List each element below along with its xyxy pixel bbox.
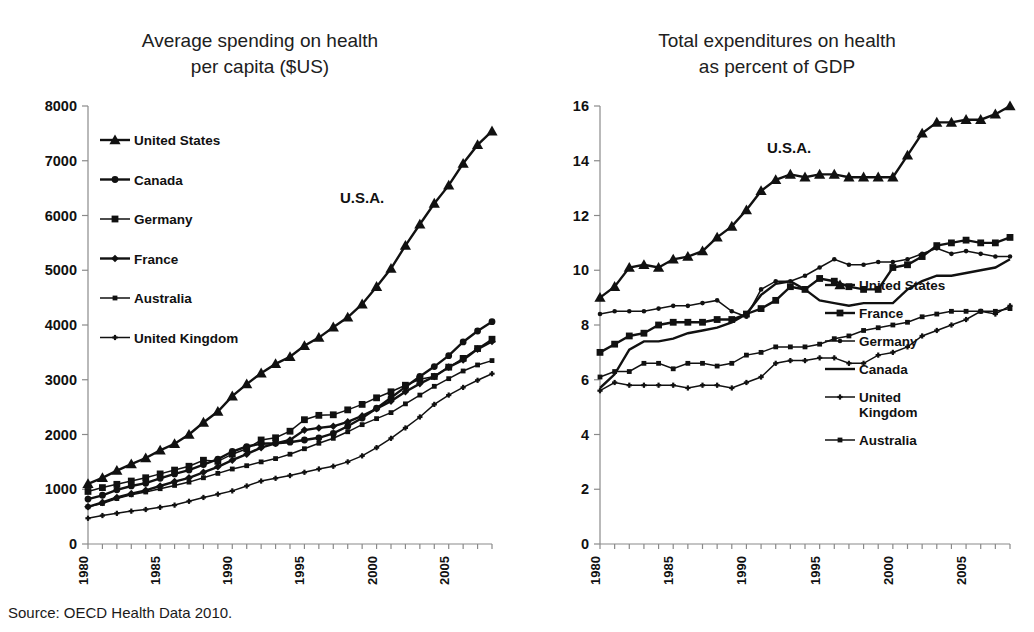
data-point-marker — [643, 383, 645, 388]
data-point-marker — [404, 425, 406, 430]
data-point-marker — [186, 463, 193, 470]
data-point-marker — [87, 516, 89, 521]
y-tick-label: 2000 — [45, 427, 77, 443]
data-point-marker — [934, 312, 939, 317]
x-tick-label: 1980 — [588, 556, 603, 585]
data-point-marker — [403, 401, 408, 406]
data-point-marker — [318, 466, 320, 471]
x-tick-label: 2005 — [954, 556, 969, 585]
series-line — [600, 309, 1010, 377]
data-point-marker — [462, 385, 464, 390]
data-point-marker — [446, 376, 451, 381]
data-point-marker — [200, 457, 207, 464]
data-point-marker — [231, 488, 233, 493]
data-point-marker — [344, 406, 351, 413]
data-point-marker — [714, 316, 721, 323]
data-point-marker — [904, 261, 911, 268]
legend-label[interactable]: Kingdom — [859, 405, 918, 420]
data-point-marker — [259, 459, 264, 464]
data-point-marker — [329, 422, 337, 430]
data-point-marker — [611, 341, 618, 348]
data-point-marker — [655, 322, 662, 329]
legend-label[interactable]: Australia — [134, 291, 192, 306]
data-point-marker — [260, 478, 262, 483]
data-point-marker — [99, 484, 106, 491]
data-point-marker — [101, 513, 103, 518]
data-point-marker — [256, 368, 267, 378]
data-point-marker — [642, 361, 647, 366]
data-point-marker — [745, 380, 747, 385]
data-point-marker — [360, 422, 365, 427]
x-tick-label: 1995 — [808, 556, 823, 585]
usa-annotation: U.S.A. — [340, 189, 384, 206]
data-point-marker — [433, 402, 435, 407]
data-point-marker — [788, 345, 793, 350]
legend-marker — [837, 310, 844, 317]
legend-marker — [113, 296, 118, 301]
legend-label[interactable]: Germany — [134, 212, 193, 227]
legend-label[interactable]: Canada — [859, 362, 908, 377]
data-point-marker — [891, 260, 896, 265]
y-tick-label: 12 — [573, 208, 589, 224]
data-point-marker — [316, 441, 321, 446]
data-point-marker — [686, 304, 691, 309]
data-point-marker — [920, 252, 925, 257]
data-point-marker — [461, 369, 466, 374]
x-tick-label: 2000 — [365, 556, 380, 585]
data-point-marker — [787, 283, 794, 290]
x-tick-label: 1985 — [148, 556, 163, 585]
data-point-marker — [230, 467, 235, 472]
data-point-marker — [597, 349, 604, 356]
data-point-marker — [628, 383, 630, 388]
y-tick-label: 3000 — [45, 372, 77, 388]
legend-label[interactable]: France — [134, 252, 179, 267]
data-point-marker — [657, 383, 659, 388]
data-point-marker — [612, 369, 617, 374]
legend-label[interactable]: United States — [134, 133, 220, 148]
data-point-marker — [1008, 254, 1013, 259]
data-point-marker — [978, 309, 983, 314]
legend-marker — [838, 339, 843, 344]
data-point-marker — [817, 342, 822, 347]
data-point-marker — [217, 492, 219, 497]
y-tick-label: 4000 — [45, 317, 77, 333]
data-point-marker — [716, 383, 718, 388]
legend-label[interactable]: United Kingdom — [134, 331, 238, 346]
legend-label[interactable]: Australia — [859, 433, 917, 448]
data-point-marker — [100, 501, 105, 506]
data-point-marker — [417, 393, 422, 398]
y-tick-label: 6000 — [45, 208, 77, 224]
data-point-marker — [331, 436, 336, 441]
legend-label[interactable]: Germany — [859, 334, 918, 349]
data-point-marker — [699, 319, 706, 326]
legend-label[interactable]: France — [859, 306, 904, 321]
data-point-marker — [244, 463, 249, 468]
x-tick-label: 2000 — [881, 556, 896, 585]
data-point-marker — [460, 339, 467, 346]
data-point-marker — [130, 509, 132, 514]
data-point-marker — [188, 499, 190, 504]
data-point-marker — [246, 483, 248, 488]
data-point-marker — [627, 369, 632, 374]
data-point-marker — [890, 323, 895, 328]
data-point-marker — [905, 257, 910, 262]
data-point-marker — [965, 317, 967, 322]
series-line — [88, 322, 492, 499]
data-point-marker — [128, 478, 135, 485]
data-point-marker — [626, 333, 633, 340]
data-point-marker — [375, 445, 377, 450]
data-point-marker — [489, 318, 496, 325]
data-point-marker — [876, 325, 881, 330]
data-point-marker — [934, 246, 939, 251]
data-point-marker — [977, 239, 984, 246]
legend-label[interactable]: Canada — [134, 173, 183, 188]
data-point-marker — [215, 471, 220, 476]
y-tick-label: 8 — [581, 317, 589, 333]
legend-label[interactable]: United — [859, 390, 901, 405]
legend-label[interactable]: United States — [859, 278, 945, 293]
data-point-marker — [491, 371, 493, 376]
chart-panel-spending-per-capita: Average spending on health per capita ($… — [0, 0, 520, 592]
data-point-marker — [744, 353, 749, 358]
data-point-marker — [920, 314, 925, 319]
data-point-marker — [476, 378, 478, 383]
